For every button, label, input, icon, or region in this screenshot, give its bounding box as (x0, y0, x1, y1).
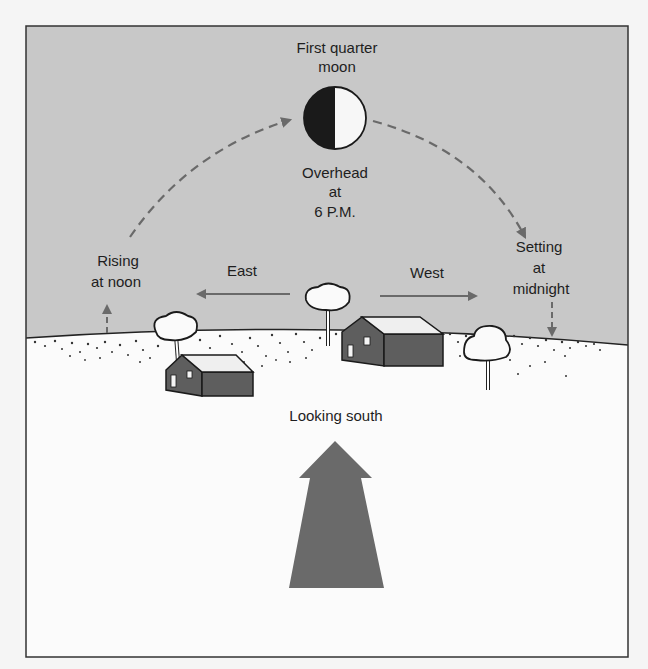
setting-line1: Setting (516, 238, 563, 255)
overhead-line1: Overhead (302, 164, 368, 181)
house-icon-left (166, 355, 253, 396)
west-label: West (410, 264, 445, 281)
moon-phase-diagram: First quarter moon Overhead at 6 P.M. Ri… (0, 0, 648, 669)
house-icon-right (342, 317, 443, 366)
rising-line2: at noon (91, 273, 141, 290)
moon-title-line1: First quarter (297, 39, 378, 56)
first-quarter-moon-icon (304, 87, 366, 149)
east-label: East (227, 262, 258, 279)
setting-line2: at (533, 259, 546, 276)
looking-south-label: Looking south (289, 407, 382, 424)
rising-line1: Rising (97, 252, 139, 269)
setting-line3: midnight (513, 280, 571, 297)
moon-title-line2: moon (318, 58, 356, 75)
overhead-line2: at (329, 183, 342, 200)
overhead-line3: 6 P.M. (314, 203, 355, 220)
